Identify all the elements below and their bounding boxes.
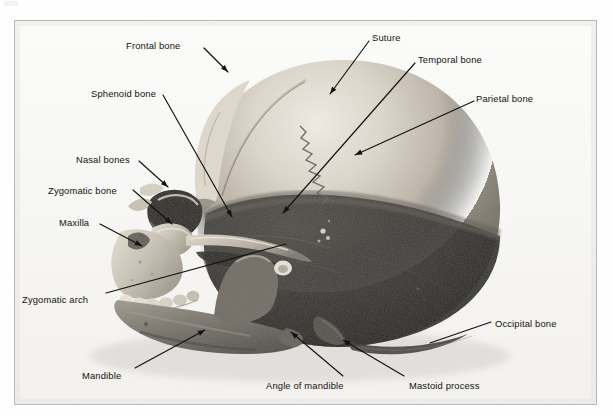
label-maxilla: Maxilla [59, 218, 89, 227]
leader-sphenoid-bone [163, 95, 232, 217]
leader-frontal-bone [204, 48, 228, 72]
leader-maxilla [100, 224, 142, 246]
label-suture: Suture [372, 33, 401, 42]
leader-lines [0, 0, 612, 415]
leader-temporal-bone [283, 63, 415, 213]
figure-page: Frontal bone Suture Temporal bone Pariet… [0, 0, 612, 415]
leader-mandible [135, 330, 205, 368]
leader-suture [330, 41, 369, 94]
label-angle-of-mandible: Angle of mandible [266, 381, 344, 390]
arrowhead-sphenoid-bone [226, 209, 232, 217]
leader-zygomatic-arch [106, 244, 286, 293]
leader-nasal-bones [139, 161, 168, 187]
leader-occipital-bone [430, 322, 491, 343]
label-mastoid-process: Mastoid process [409, 381, 480, 390]
label-parietal-bone: Parietal bone [476, 94, 533, 103]
arrowhead-mandible [197, 330, 205, 336]
skull-figure: Frontal bone Suture Temporal bone Pariet… [0, 0, 612, 415]
label-zygomatic-arch: Zygomatic arch [22, 295, 88, 304]
arrowhead-parietal-bone [355, 150, 363, 155]
label-zygomatic-bone: Zygomatic bone [48, 186, 117, 195]
label-mandible: Mandible [82, 371, 121, 380]
label-occipital-bone: Occipital bone [495, 319, 557, 328]
label-nasal-bones: Nasal bones [76, 155, 130, 164]
leader-parietal-bone [355, 101, 474, 155]
label-frontal-bone: Frontal bone [126, 41, 180, 50]
leader-zygomatic-bone [133, 190, 172, 224]
leader-angle-of-mandible [291, 332, 343, 376]
leader-mastoid-process [343, 340, 404, 376]
arrowhead-suture [330, 87, 336, 94]
label-temporal-bone: Temporal bone [418, 55, 482, 64]
arrowhead-mastoid-process [343, 340, 350, 346]
arrowhead-maxilla [134, 240, 142, 246]
label-sphenoid-bone: Sphenoid bone [91, 89, 156, 98]
